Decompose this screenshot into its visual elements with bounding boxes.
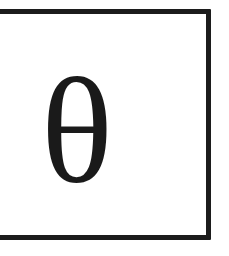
canvas: θ <box>0 0 229 256</box>
theta-symbol: θ <box>41 56 113 206</box>
